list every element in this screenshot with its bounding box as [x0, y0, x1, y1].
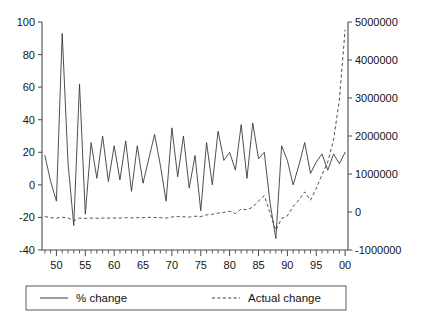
legend-label-1: Actual change: [248, 292, 321, 304]
left-axis: -40-20020406080100: [17, 16, 42, 256]
right-axis-tick-label: -1000000: [355, 244, 402, 256]
x-axis-tick-label: 55: [79, 259, 91, 271]
x-axis-tick-label: 95: [310, 259, 322, 271]
right-axis-tick-label: 3000000: [355, 92, 398, 104]
x-axis-tick-label: 80: [224, 259, 236, 271]
left-axis-tick-label: 80: [23, 49, 35, 61]
legend-label-0: % change: [76, 292, 127, 304]
x-axis-tick-label: 70: [166, 259, 178, 271]
left-axis-tick-label: 40: [23, 114, 35, 126]
left-axis-tick-label: 0: [29, 179, 35, 191]
right-axis: -100000001000000200000030000004000000500…: [348, 16, 402, 256]
series-line-dashed: [45, 30, 345, 231]
left-axis-tick-label: -40: [19, 244, 35, 256]
line-chart: -40-20020406080100 -10000000100000020000…: [0, 0, 423, 320]
x-axis: 5055606570758085909500: [42, 250, 351, 271]
x-axis-tick-label: 00: [339, 259, 351, 271]
x-axis-tick-label: 60: [108, 259, 120, 271]
chart-legend: % changeActual change: [26, 286, 346, 310]
left-axis-tick-label: 100: [17, 16, 35, 28]
left-axis-tick-label: 20: [23, 146, 35, 158]
x-axis-tick-label: 50: [50, 259, 62, 271]
data-series-group: [45, 30, 345, 239]
chart-figure: -40-20020406080100 -10000000100000020000…: [0, 0, 423, 320]
left-axis-tick-label: -20: [19, 211, 35, 223]
right-axis-tick-label: 5000000: [355, 16, 398, 28]
x-axis-tick-label: 75: [195, 259, 207, 271]
x-axis-tick-label: 65: [137, 259, 149, 271]
right-axis-tick-label: 1000000: [355, 168, 398, 180]
x-axis-tick-label: 90: [281, 259, 293, 271]
left-axis-tick-label: 60: [23, 81, 35, 93]
x-axis-tick-label: 85: [252, 259, 264, 271]
right-axis-tick-label: 0: [355, 206, 361, 218]
right-axis-tick-label: 4000000: [355, 54, 398, 66]
series-line-solid: [45, 33, 345, 238]
right-axis-tick-label: 2000000: [355, 130, 398, 142]
